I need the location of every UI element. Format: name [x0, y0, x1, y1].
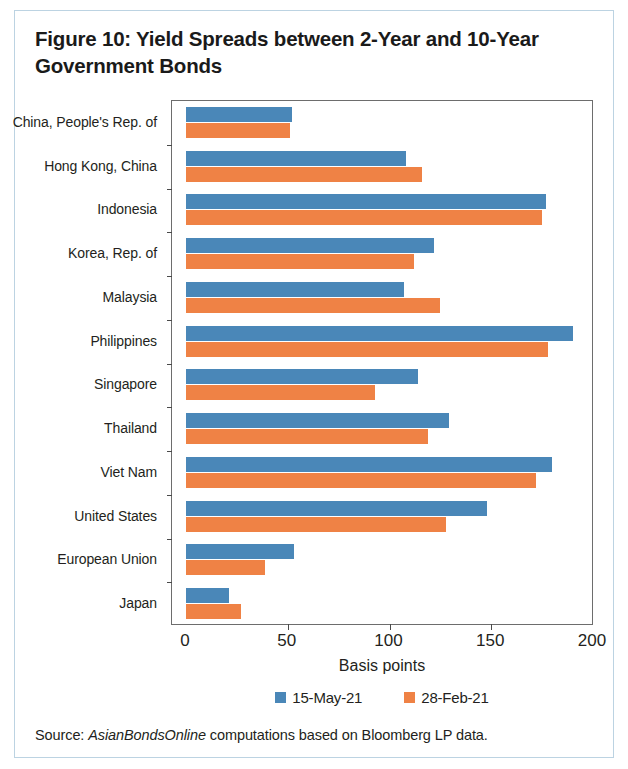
- y-axis-tick-label: Thailand: [104, 420, 157, 436]
- legend-label: 28-Feb-21: [421, 689, 488, 706]
- y-axis-tick: [167, 539, 172, 540]
- y-axis-tick: [167, 495, 172, 496]
- x-axis-tick-label: 150: [476, 631, 504, 651]
- bar-group: [186, 282, 592, 314]
- bar[interactable]: [186, 413, 449, 428]
- bar-group: [186, 501, 592, 533]
- bar[interactable]: [186, 342, 548, 357]
- y-axis-tick-label: Viet Nam: [100, 464, 157, 480]
- bar[interactable]: [186, 604, 241, 619]
- x-axis-title: Basis points: [171, 657, 593, 675]
- x-axis-tick: [390, 624, 391, 630]
- x-axis-tick: [491, 624, 492, 630]
- bar-group: [186, 326, 592, 358]
- x-axis-tick-label: 50: [277, 631, 296, 651]
- y-axis-tick: [167, 276, 172, 277]
- bar-group: [186, 457, 592, 489]
- x-axis-tick: [288, 624, 289, 630]
- bar[interactable]: [186, 588, 229, 603]
- bar[interactable]: [186, 107, 292, 122]
- x-axis-tick-label: 100: [374, 631, 402, 651]
- source-publication: AsianBondsOnline: [88, 727, 206, 743]
- bar-group: [186, 413, 592, 445]
- legend-item[interactable]: 15-May-21: [275, 689, 362, 706]
- y-axis-tick: [167, 451, 172, 452]
- y-axis-tick: [167, 364, 172, 365]
- y-axis-tick-label: Hong Kong, China: [44, 158, 157, 174]
- y-axis-tick: [167, 232, 172, 233]
- bar[interactable]: [186, 473, 536, 488]
- bar[interactable]: [186, 369, 418, 384]
- bar[interactable]: [186, 544, 294, 559]
- figure-container: Figure 10: Yield Spreads between 2-Year …: [14, 10, 614, 758]
- bar[interactable]: [186, 238, 434, 253]
- bar-group: [186, 107, 592, 139]
- bar-group: [186, 369, 592, 401]
- y-axis-tick-label: Singapore: [94, 376, 157, 392]
- bar-group: [186, 238, 592, 270]
- bar[interactable]: [186, 429, 428, 444]
- y-axis-tick-label: United States: [74, 508, 157, 524]
- x-axis-tick-label: 200: [578, 631, 606, 651]
- y-axis-tick: [167, 407, 172, 408]
- bar[interactable]: [186, 167, 422, 182]
- source-suffix: computations based on Bloomberg LP data.: [206, 727, 488, 743]
- y-axis-tick: [167, 189, 172, 190]
- chart-legend: 15-May-2128-Feb-21: [171, 689, 593, 706]
- bar[interactable]: [186, 123, 290, 138]
- y-axis-labels: China, People's Rep. ofHong Kong, ChinaI…: [15, 100, 165, 625]
- bar-group: [186, 151, 592, 183]
- bar-group: [186, 588, 592, 620]
- plot-area: [171, 100, 593, 625]
- bar[interactable]: [186, 560, 265, 575]
- x-axis-tick-label: 0: [180, 631, 189, 651]
- y-axis-tick-label: Philippines: [90, 333, 157, 349]
- legend-label: 15-May-21: [292, 689, 362, 706]
- bar[interactable]: [186, 501, 487, 516]
- source-prefix: Source:: [35, 727, 88, 743]
- y-axis-tick-label: European Union: [57, 551, 157, 567]
- legend-swatch-icon: [275, 692, 286, 703]
- y-axis-tick-label: Japan: [119, 595, 157, 611]
- bar-group: [186, 544, 592, 576]
- y-axis-tick-label: Korea, Rep. of: [68, 245, 157, 261]
- figure-title: Figure 10: Yield Spreads between 2-Year …: [35, 25, 575, 79]
- source-note: Source: AsianBondsOnline computations ba…: [35, 727, 488, 743]
- y-axis-tick: [167, 145, 172, 146]
- legend-swatch-icon: [404, 692, 415, 703]
- bar[interactable]: [186, 254, 414, 269]
- bar[interactable]: [186, 457, 552, 472]
- y-axis-tick: [167, 582, 172, 583]
- bar[interactable]: [186, 326, 573, 341]
- bar[interactable]: [186, 194, 546, 209]
- y-axis-tick-label: Indonesia: [97, 201, 157, 217]
- y-axis-tick-label: China, People's Rep. of: [13, 114, 157, 130]
- bar[interactable]: [186, 385, 375, 400]
- y-axis-tick-label: Malaysia: [103, 289, 157, 305]
- bar-group: [186, 194, 592, 226]
- bar[interactable]: [186, 210, 542, 225]
- bars-layer: [186, 101, 592, 624]
- bar[interactable]: [186, 517, 446, 532]
- bar[interactable]: [186, 151, 406, 166]
- bar[interactable]: [186, 282, 404, 297]
- y-axis-tick: [167, 320, 172, 321]
- legend-item[interactable]: 28-Feb-21: [404, 689, 488, 706]
- bar[interactable]: [186, 298, 440, 313]
